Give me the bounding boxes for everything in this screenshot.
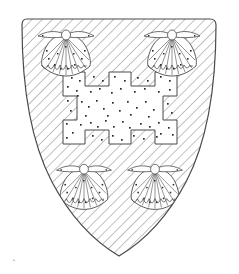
illustration-plate: • — [0, 0, 239, 274]
corner-mark: • — [13, 258, 15, 263]
cross-potent-charge — [63, 72, 177, 144]
coat-of-arms-drawing — [0, 0, 239, 274]
escallop-chief-sinister — [144, 30, 200, 76]
escallop-chief-dexter — [38, 30, 94, 76]
